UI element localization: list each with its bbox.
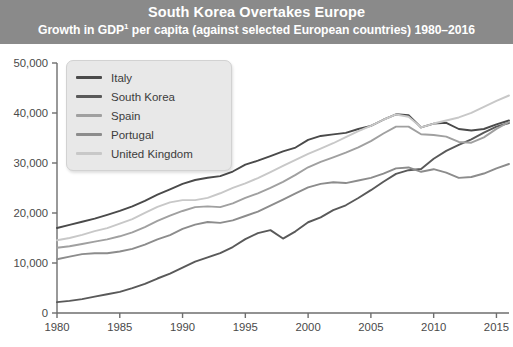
chart-subtitle-post: per capita (against selected European co…: [128, 23, 475, 37]
legend-item-label: Portugal: [111, 129, 154, 141]
x-axis: 19801985199019952000200520102015: [44, 313, 509, 333]
chart-title-band: South Korea Overtakes Europe Growth in G…: [0, 0, 513, 44]
legend-swatch-icon: [76, 76, 102, 79]
legend-swatch-icon: [76, 152, 102, 155]
y-axis-tick-label: 0: [42, 307, 48, 319]
chart-subtitle: Growth in GDP1 per capita (against selec…: [0, 22, 513, 39]
legend-item-south-korea[interactable]: South Korea: [76, 87, 222, 106]
y-axis: 010,00020,00030,00040,00050,000: [13, 57, 57, 319]
chart-plot-area: 010,00020,00030,00040,00050,000 19801985…: [0, 44, 513, 347]
legend-item-portugal[interactable]: Portugal: [76, 125, 222, 144]
y-axis-tick-label: 20,000: [13, 207, 48, 219]
x-axis-tick-label: 1980: [44, 321, 69, 333]
legend-item-italy[interactable]: Italy: [76, 68, 222, 87]
legend-swatch-icon: [76, 114, 102, 117]
series-line-portugal: [57, 164, 509, 259]
x-axis-tick-label: 2015: [484, 321, 509, 333]
y-axis-tick-label: 30,000: [13, 157, 48, 169]
chart-subtitle-pre: Growth in GDP: [38, 23, 124, 37]
legend-item-united-kingdom[interactable]: United Kingdom: [76, 144, 222, 163]
y-axis-tick-label: 50,000: [13, 57, 48, 69]
chart-title: South Korea Overtakes Europe: [0, 3, 513, 22]
chart-legend: ItalySouth KoreaSpainPortugalUnited King…: [66, 60, 232, 171]
y-axis-tick-label: 40,000: [13, 107, 48, 119]
legend-swatch-icon: [76, 133, 102, 136]
x-axis-tick-label: 1990: [170, 321, 195, 333]
x-axis-tick-label: 2010: [421, 321, 446, 333]
x-axis-tick-label: 1985: [107, 321, 132, 333]
legend-item-label: Italy: [111, 72, 132, 84]
x-axis-tick-label: 2000: [296, 321, 321, 333]
legend-swatch-icon: [76, 95, 102, 98]
legend-item-spain[interactable]: Spain: [76, 106, 222, 125]
x-axis-tick-label: 2005: [358, 321, 383, 333]
legend-item-label: United Kingdom: [111, 148, 193, 160]
legend-item-label: Spain: [111, 110, 140, 122]
legend-item-label: South Korea: [111, 91, 175, 103]
y-axis-tick-label: 10,000: [13, 257, 48, 269]
x-axis-tick-label: 1995: [233, 321, 258, 333]
